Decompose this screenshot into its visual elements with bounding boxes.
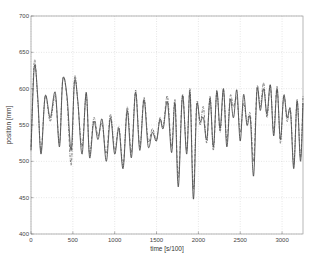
y-tick-label: 650 (19, 49, 30, 55)
line-chart: 400450500550600650700 050010001500200025… (0, 0, 315, 262)
x-tick-label: 0 (29, 237, 33, 243)
y-tick-label: 450 (19, 195, 30, 201)
x-tick-label: 1500 (150, 237, 164, 243)
y-tick-label: 550 (19, 122, 30, 128)
y-tick-label: 600 (19, 86, 30, 92)
x-axis-ticks: 050010001500200025003000 (29, 232, 289, 244)
x-tick-label: 2500 (234, 237, 248, 243)
y-tick-label: 500 (19, 158, 30, 164)
x-axis-label: time [s/100] (150, 245, 184, 253)
y-axis-label: position [mm] (5, 105, 13, 144)
series-estimated-line (31, 60, 303, 189)
grid-lines (31, 16, 303, 234)
x-tick-label: 3000 (275, 237, 289, 243)
x-tick-label: 500 (68, 237, 79, 243)
series-measured-line (31, 65, 303, 199)
y-tick-label: 700 (19, 13, 30, 19)
x-tick-label: 2000 (192, 237, 206, 243)
y-tick-label: 400 (19, 231, 30, 237)
x-tick-label: 1000 (108, 237, 122, 243)
